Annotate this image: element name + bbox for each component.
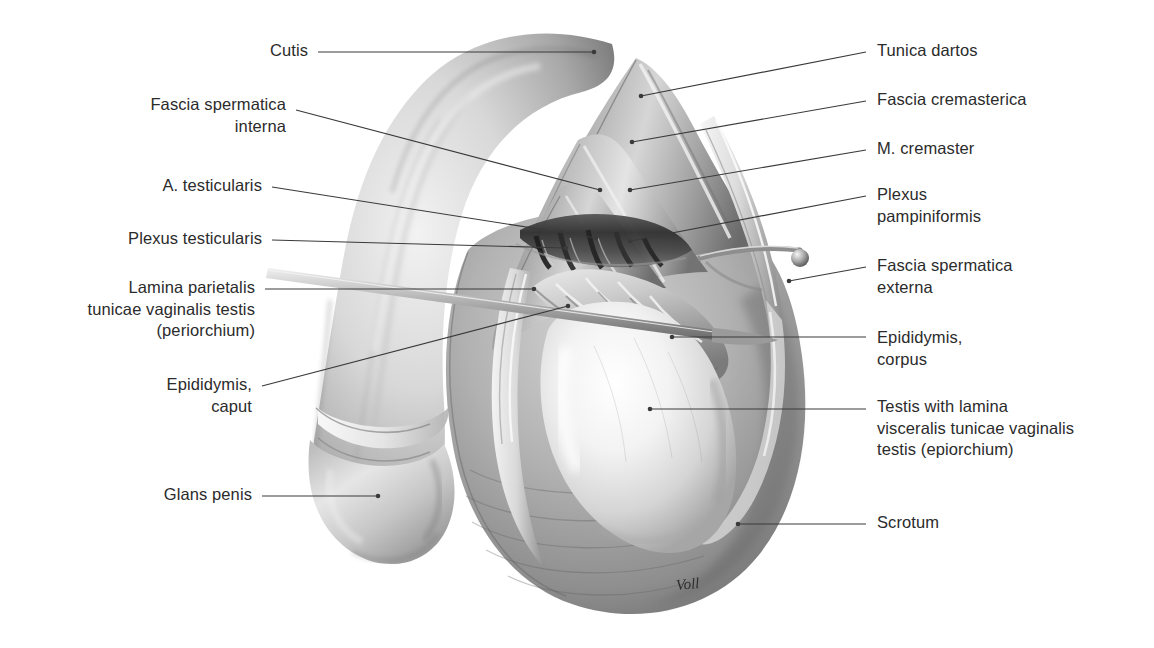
label-a-testicularis: A. testicularis: [162, 175, 262, 197]
leader-endpoint-a-testicularis: [594, 236, 599, 241]
leader-endpoint-plexus-pampiniformis: [628, 239, 633, 244]
artist-signature: Voll: [675, 575, 700, 594]
leader-endpoint-fascia-spermatica-interna: [598, 188, 603, 193]
label-fascia-spermatica-externa: Fascia spermatica externa: [877, 255, 1013, 298]
leader-endpoint-fascia-cremasterica: [630, 140, 635, 145]
leader-endpoint-lamina-parietalis: [532, 287, 537, 292]
label-lamina-parietalis: Lamina parietalis tunicae vaginalis test…: [88, 277, 256, 342]
label-plexus-pampiniformis: Plexus pampiniformis: [877, 184, 981, 227]
label-fascia-spermatica-interna: Fascia spermatica interna: [150, 94, 286, 137]
leader-endpoint-m-cremaster: [628, 188, 633, 193]
leader-endpoint-epididymis-corpus: [670, 335, 675, 340]
leader-tunica-dartos: [641, 52, 866, 96]
label-plexus-testicularis: Plexus testicularis: [128, 228, 262, 250]
leader-fascia-spermatica-externa: [789, 267, 866, 281]
anatomical-plate: CutisFascia spermatica internaA. testicu…: [0, 0, 1154, 648]
label-testis-epiorchium: Testis with lamina visceralis tunicae va…: [877, 396, 1074, 461]
label-fascia-cremasterica: Fascia cremasterica: [877, 89, 1027, 111]
leader-endpoint-tunica-dartos: [639, 94, 644, 99]
leader-endpoint-plexus-testicularis: [564, 246, 569, 251]
leader-endpoint-epididymis-caput: [566, 304, 571, 309]
label-tunica-dartos: Tunica dartos: [877, 40, 978, 62]
label-scrotum: Scrotum: [877, 512, 939, 534]
leader-endpoint-glans-penis: [376, 494, 381, 499]
leader-endpoint-fascia-spermatica-externa: [787, 279, 792, 284]
leader-endpoint-testis-epiorchium: [648, 407, 653, 412]
label-epididymis-corpus: Epididymis, corpus: [877, 327, 962, 370]
label-cutis: Cutis: [270, 40, 308, 62]
label-glans-penis: Glans penis: [164, 484, 252, 506]
leader-endpoint-cutis: [592, 50, 597, 55]
label-m-cremaster: M. cremaster: [877, 138, 974, 160]
label-epididymis-caput: Epididymis, caput: [167, 374, 252, 417]
leader-endpoint-scrotum: [736, 522, 741, 527]
